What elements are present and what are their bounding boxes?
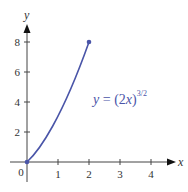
equation-exponent: 3/2 <box>137 89 147 98</box>
equation-base: (2x) <box>114 92 137 108</box>
y-tick-label: 8 <box>15 36 21 48</box>
y-axis-arrow-icon <box>24 24 31 33</box>
y-tick-label: 2 <box>15 126 21 138</box>
y-tick-label: 4 <box>15 96 21 108</box>
origin-label: 0 <box>18 166 24 178</box>
graph-curve <box>27 42 89 162</box>
chart: x y 1 2 3 4 0 2 4 6 8 y = (2x)3/2 <box>0 0 188 192</box>
x-axis-label: x <box>177 155 184 169</box>
y-tick-label: 6 <box>15 66 21 78</box>
x-tick-label: 3 <box>117 168 123 180</box>
x-tick-label: 2 <box>86 168 92 180</box>
end-point <box>87 40 92 45</box>
x-tick-label: 4 <box>148 168 154 180</box>
start-point <box>25 160 30 165</box>
x-axis-arrow-icon <box>167 159 176 166</box>
y-axis-label: y <box>23 8 30 22</box>
x-tick-label: 1 <box>55 168 61 180</box>
equation-label: y = (2x)3/2 <box>91 89 147 108</box>
